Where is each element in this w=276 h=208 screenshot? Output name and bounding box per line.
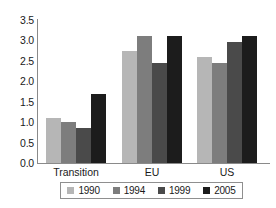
legend-label: 1994	[124, 186, 145, 196]
bar-us-1994	[212, 63, 227, 163]
legend-label: 1999	[169, 186, 190, 196]
bar-eu-1994	[137, 36, 152, 163]
bar-us-2005	[242, 36, 257, 163]
bar-us-1999	[227, 42, 242, 163]
bar-us-1990	[197, 57, 212, 163]
y-axis-tick-label: 2.5	[4, 56, 34, 67]
legend-swatch-icon	[158, 187, 165, 194]
bar-transition-1999	[76, 128, 91, 163]
x-axis-category-label: US	[177, 166, 276, 179]
bar-transition-1994	[61, 122, 76, 163]
y-axis-tick-label: 0.5	[4, 137, 34, 148]
y-axis-tick-label: 1.5	[4, 96, 34, 107]
y-axis-tick-label: 1.0	[4, 117, 34, 128]
legend-item-1994[interactable]: 1994	[113, 186, 145, 196]
bar-group-us	[197, 20, 257, 163]
bar-eu-2005	[167, 36, 182, 163]
legend-swatch-icon	[67, 187, 74, 194]
legend-item-1990[interactable]: 1990	[67, 186, 99, 196]
y-axis-tick-label: 3.5	[4, 15, 34, 26]
bar-group-eu	[122, 20, 182, 163]
y-axis-tick-label: 3.0	[4, 35, 34, 46]
bar-eu-1999	[152, 63, 167, 163]
legend-item-2005[interactable]: 2005	[203, 186, 235, 196]
bar-transition-1990	[46, 118, 61, 163]
bar-group-transition	[46, 20, 106, 163]
legend-item-1999[interactable]: 1999	[158, 186, 190, 196]
bar-eu-1990	[122, 51, 137, 163]
chart-legend: 1990199419992005	[60, 182, 243, 199]
legend-swatch-icon	[203, 187, 210, 194]
x-axis-line	[37, 163, 270, 164]
legend-label: 2005	[214, 186, 235, 196]
bar-transition-2005	[91, 94, 106, 163]
legend-label: 1990	[78, 186, 99, 196]
legend-swatch-icon	[113, 187, 120, 194]
y-axis-tick-label: 2.0	[4, 76, 34, 87]
bar-chart-figure: 3.53.02.52.01.51.00.50.0 199019941999200…	[0, 0, 276, 208]
plot-area	[37, 20, 269, 163]
